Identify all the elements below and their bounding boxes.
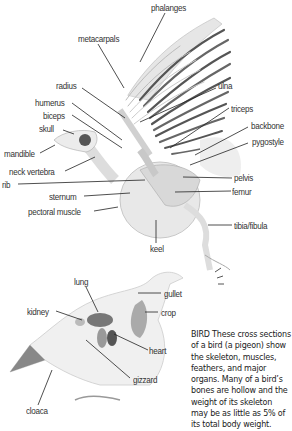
label-pelvis: pelvis bbox=[234, 172, 253, 183]
wing-feathers bbox=[126, 18, 230, 154]
label-phalanges: phalanges bbox=[151, 2, 186, 13]
pigeon-body bbox=[10, 272, 183, 385]
lung-shape bbox=[87, 313, 113, 327]
label-keel: keel bbox=[150, 243, 164, 254]
label-pectoral-muscle: pectoral muscle bbox=[28, 206, 81, 217]
label-sternum: sternum bbox=[49, 191, 76, 202]
label-ulna: ulna bbox=[218, 80, 232, 91]
label-femur: femur bbox=[232, 186, 251, 197]
caption-text: BIRD These cross sections of a bird (a p… bbox=[191, 329, 291, 431]
label-triceps: triceps bbox=[231, 103, 253, 114]
label-gullet: gullet bbox=[164, 288, 182, 299]
label-humerus: humerus bbox=[35, 97, 65, 108]
label-neck-vertebra: neck vertebra bbox=[9, 166, 55, 177]
label-radius: radius bbox=[56, 80, 76, 91]
label-cloaca: cloaca bbox=[26, 405, 48, 416]
label-backbone: backbone bbox=[251, 120, 284, 131]
label-skull: skull bbox=[39, 123, 54, 134]
label-gizzard: gizzard bbox=[133, 374, 157, 385]
label-metacarpals: metacarpals bbox=[78, 33, 119, 44]
label-mandible: mandible bbox=[4, 148, 35, 159]
label-lung: lung bbox=[74, 276, 88, 287]
label-crop: crop bbox=[161, 307, 176, 318]
label-rib: rib bbox=[2, 179, 10, 190]
label-biceps: biceps bbox=[43, 110, 65, 121]
heart-shape bbox=[107, 330, 117, 346]
label-heart: heart bbox=[149, 345, 166, 356]
label-kidney: kidney bbox=[27, 306, 49, 317]
label-tibia-fibula: tibia/fibula bbox=[234, 220, 267, 231]
label-pygostyle: pygostyle bbox=[252, 136, 284, 147]
